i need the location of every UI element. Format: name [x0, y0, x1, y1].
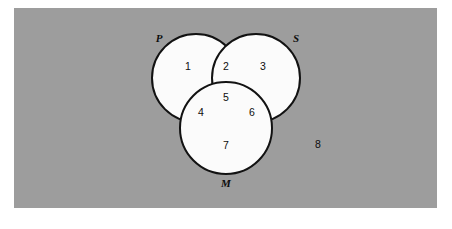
region-count-s-only: 3 — [260, 60, 266, 72]
region-count-s-m: 6 — [249, 106, 255, 118]
region-count-p-s-m: 5 — [223, 91, 229, 103]
venn-diagram-canvas: P S M 1 2 3 4 5 6 7 8 — [0, 0, 452, 229]
region-count-p-m: 4 — [198, 106, 204, 118]
region-count-m-only: 7 — [223, 139, 229, 151]
set-label-m: M — [220, 177, 232, 189]
region-count-universe: 8 — [315, 138, 321, 150]
set-label-p: P — [156, 32, 163, 44]
region-count-p-only: 1 — [185, 60, 191, 72]
set-label-s: S — [293, 32, 299, 44]
venn-diagram-figure: P S M 1 2 3 4 5 6 7 8 — [0, 0, 452, 229]
region-count-p-s: 2 — [223, 60, 229, 72]
